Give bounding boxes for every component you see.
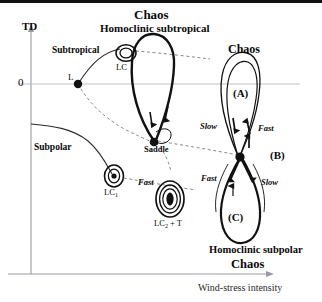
x-axis-arrow-icon bbox=[266, 271, 274, 277]
limit-cycle-LC1 bbox=[105, 165, 124, 187]
label-subpolar: Subpolar bbox=[34, 143, 72, 153]
label-point-L: L bbox=[68, 73, 74, 82]
panel-label-B: (B) bbox=[270, 150, 285, 161]
title-bottom-chaos: Chaos bbox=[231, 258, 264, 271]
lc1-to-lc2-dashed bbox=[124, 178, 196, 190]
label-LC1: LC1 bbox=[104, 188, 118, 198]
label-LC1-subscript: 1 bbox=[115, 192, 118, 198]
title-right-chaos: Chaos bbox=[228, 43, 260, 55]
label-fast-lower: Fast bbox=[201, 174, 217, 183]
panel-label-C: (C) bbox=[228, 212, 243, 223]
label-saddle: Saddle bbox=[144, 145, 169, 154]
label-slow-lower: Slow bbox=[261, 178, 278, 187]
label-LC2-tail: + T bbox=[168, 218, 182, 228]
panel-label-A: (A) bbox=[233, 88, 248, 99]
label-subtropical: Subtropical bbox=[52, 46, 99, 56]
label-fast-upper: Fast bbox=[258, 124, 274, 133]
x-axis-label: Wind-stress intensity bbox=[198, 283, 282, 293]
panel-A-loop bbox=[221, 52, 260, 156]
bifurcation-figure: TD 0 Wind-stress intensity Chaos Homocli… bbox=[0, 0, 322, 302]
label-LC: LC bbox=[116, 63, 127, 72]
title-homoclinic-subpolar: Homoclinic subpolar bbox=[209, 245, 303, 256]
label-fast-middle: Fast bbox=[138, 178, 154, 187]
title-top-chaos: Chaos bbox=[134, 8, 169, 21]
zero-tick-label: 0 bbox=[18, 77, 24, 88]
label-LC1-main: LC bbox=[104, 187, 115, 197]
unstable-branch-dashed bbox=[78, 84, 152, 142]
title-top-homoclinic-subtropical: Homoclinic subtropical bbox=[100, 23, 210, 34]
limit-cycle-LC2-plus-T bbox=[156, 181, 184, 217]
y-axis-label: TD bbox=[22, 21, 37, 32]
point-L-marker bbox=[74, 80, 82, 88]
label-LC2-main: LC bbox=[154, 218, 165, 228]
saddle-to-B-dashed bbox=[158, 141, 238, 155]
homoclinic-subtropical-loop bbox=[132, 34, 174, 144]
label-slow-upper: Slow bbox=[200, 122, 217, 131]
label-LC2-plus-T: LC2 + T bbox=[154, 219, 182, 229]
panel-C-loop bbox=[216, 158, 265, 243]
branch-group bbox=[31, 49, 238, 190]
